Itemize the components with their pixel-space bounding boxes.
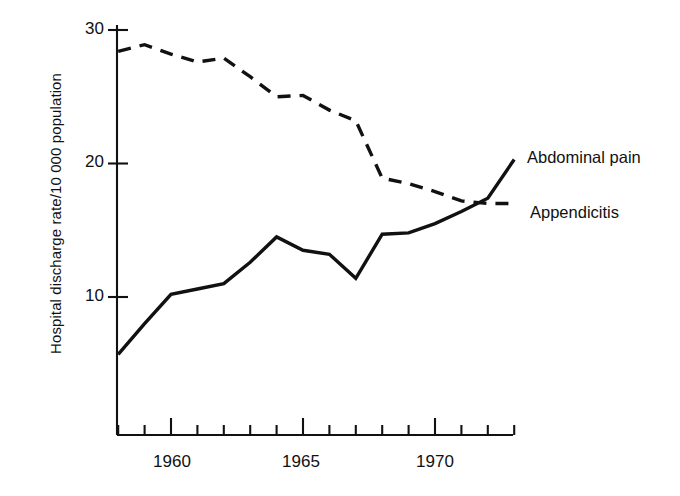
series-line-abdominal-pain xyxy=(118,159,514,354)
plot-area xyxy=(0,0,680,496)
series-line-appendicitis xyxy=(118,45,514,204)
axis-lines xyxy=(117,25,513,435)
x-axis-ticks xyxy=(118,418,514,435)
chart-figure: Hospital discharge rate/10 000 populatio… xyxy=(0,0,680,496)
